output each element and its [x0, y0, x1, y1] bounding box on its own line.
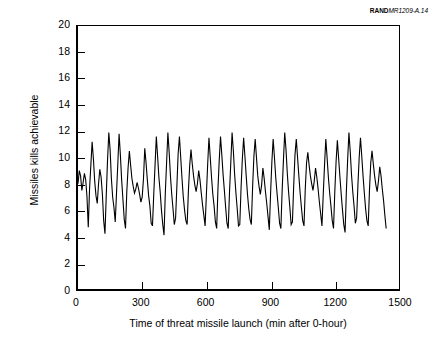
y-axis-tick-label: 10 — [46, 152, 70, 163]
rand-document-id: RANDMR1209-A.14 — [370, 7, 428, 15]
y-axis-tick-label: 6 — [46, 205, 70, 216]
y-axis-tick-label: 4 — [46, 232, 70, 243]
y-axis-tick — [78, 185, 85, 186]
x-axis-tick-label: 0 — [56, 297, 96, 308]
x-axis-tick — [272, 282, 273, 289]
y-axis-tick-label: 12 — [46, 125, 70, 136]
y-axis-tick-label: 20 — [46, 19, 70, 30]
rand-doc-number: MR1209-A.14 — [388, 7, 428, 14]
y-axis-tick-label: 16 — [46, 72, 70, 83]
y-axis-tick — [78, 211, 85, 212]
y-axis-tick — [78, 52, 85, 53]
y-axis-tick — [78, 25, 85, 26]
figure-chart-missile-kills: RANDMR1209-A.14 Time of threat missile l… — [0, 0, 432, 345]
y-axis-tick — [78, 132, 85, 133]
y-axis-tick-label: 18 — [46, 46, 70, 57]
y-axis-tick — [78, 78, 85, 79]
x-axis-tick-label: 900 — [250, 297, 290, 308]
y-axis-tick — [78, 265, 85, 266]
y-axis-tick — [78, 158, 85, 159]
y-axis-tick-label: 2 — [46, 258, 70, 269]
x-axis-tick-label: 1200 — [315, 297, 355, 308]
y-axis-tick — [78, 105, 85, 106]
x-axis-tick — [207, 282, 208, 289]
y-axis-tick — [78, 238, 85, 239]
y-axis-tick-label: 14 — [46, 99, 70, 110]
series-line-missiles-kills — [78, 26, 399, 289]
y-axis-tick-label: 8 — [46, 179, 70, 190]
y-axis-tick-label: 0 — [46, 285, 70, 296]
plot-area — [76, 25, 400, 291]
rand-brand-label: RAND — [370, 7, 389, 14]
x-axis-tick-label: 600 — [186, 297, 226, 308]
y-axis-title: Missiles kills achievable — [28, 30, 40, 270]
x-axis-tick-label: 1500 — [380, 297, 420, 308]
x-axis-tick — [142, 282, 143, 289]
x-axis-tick-label: 300 — [121, 297, 161, 308]
x-axis-title: Time of threat missile launch (min after… — [60, 317, 416, 329]
x-axis-tick — [336, 282, 337, 289]
